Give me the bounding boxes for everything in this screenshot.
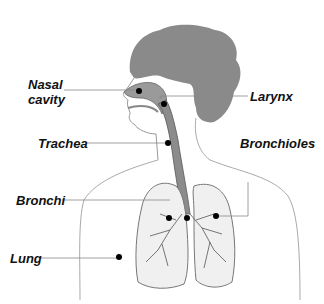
mouth-airway	[128, 106, 158, 112]
bronchi-marker-right	[184, 215, 190, 221]
label-bronchioles: Bronchioles	[240, 136, 315, 151]
label-nasal-line2: cavity	[28, 92, 65, 107]
label-larynx: Larynx	[250, 89, 293, 104]
bronchioles-marker	[213, 213, 219, 219]
label-bronchi: Bronchi	[16, 193, 65, 208]
larynx-marker	[161, 101, 167, 107]
bronchi-marker-left	[166, 215, 172, 221]
respiratory-diagram: Nasal cavity Larynx Trachea Bronchioles …	[0, 0, 324, 304]
left-lung	[136, 183, 188, 288]
label-nasal-cavity: Nasal cavity	[28, 77, 65, 107]
lung-marker	[116, 254, 122, 260]
label-lung: Lung	[10, 251, 42, 266]
hair-shape	[130, 25, 241, 123]
label-nasal-line1: Nasal	[28, 77, 65, 92]
right-lung	[193, 184, 235, 287]
nasal-cavity-marker	[136, 88, 142, 94]
trachea-marker	[165, 140, 171, 146]
anatomy-illustration	[0, 0, 324, 304]
label-trachea: Trachea	[38, 136, 88, 151]
